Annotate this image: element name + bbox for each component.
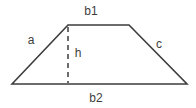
label-top-base: b1 xyxy=(84,4,98,18)
label-left-side: a xyxy=(28,33,35,47)
trapezoid-outline xyxy=(12,25,187,84)
label-bottom-base: b2 xyxy=(89,91,103,105)
trapezoid-diagram: b1 a c h b2 xyxy=(0,0,196,108)
label-height: h xyxy=(75,46,82,60)
trapezoid-canvas: b1 a c h b2 xyxy=(0,0,196,108)
label-right-side: c xyxy=(156,37,162,51)
